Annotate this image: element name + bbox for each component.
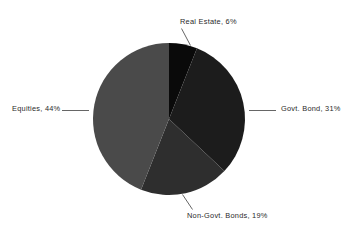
pie-label-real-estate: Real Estate, 6% [180,17,237,26]
pie-chart-figure: Real Estate, 6% Govt. Bond, 31% Non-Govt… [0,0,359,233]
leader-line-real-estate [182,29,191,46]
pie-label-equities: Equities, 44% [12,104,60,113]
pie-slices-group [93,43,245,195]
pie-chart-canvas [0,0,359,233]
leader-line-non-govt-bonds [183,195,193,210]
pie-label-govt-bond: Govt. Bond, 31% [281,104,341,113]
pie-label-non-govt-bonds: Non-Govt. Bonds, 19% [187,211,268,220]
